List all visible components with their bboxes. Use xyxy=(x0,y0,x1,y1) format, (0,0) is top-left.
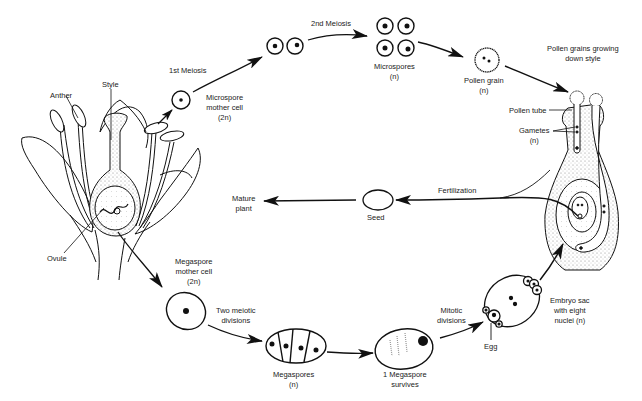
label-fertilization: Fertilization xyxy=(438,186,476,196)
megaspore-mother-cell-icon xyxy=(160,285,213,336)
arrow-to-pollen-grain xyxy=(418,42,463,57)
arrow-to-stigma xyxy=(505,66,568,92)
label-gametes: Gametes (n) xyxy=(519,126,549,146)
label-two-meiotic-divisions: Two meiotic divisions xyxy=(216,306,256,326)
label-first-meiosis: 1st Meiosis xyxy=(169,66,207,76)
label-megaspore-mother-cell: Megaspore mother cell (2n) xyxy=(175,257,213,287)
microspore-mother-cell-icon xyxy=(172,91,190,109)
label-egg: Egg xyxy=(484,342,497,352)
arrow-ovule-to-megaspore-mother-cell xyxy=(118,232,162,287)
pistil-pollen-tube-illustration xyxy=(545,91,619,270)
arrow-to-surviving-megaspore xyxy=(327,352,373,353)
dyad-cells-icon xyxy=(267,38,303,54)
label-mature-plant: Mature plant xyxy=(232,194,255,214)
label-microspore-mother-cell: Microspore mother cell (2n) xyxy=(206,93,243,123)
microspores-tetrad-icon xyxy=(377,18,414,56)
megaspores-icon xyxy=(266,329,326,363)
fertilization-tube-line xyxy=(500,170,550,198)
arrow-anther-to-mmc xyxy=(158,110,172,124)
arrow-seed-to-mature-plant xyxy=(264,200,356,201)
label-megaspores: Megaspores (n) xyxy=(273,370,314,390)
label-ovule: Ovule xyxy=(47,254,67,264)
label-pollen-grain: Pollen grain (n) xyxy=(464,76,504,96)
seed-icon xyxy=(363,190,393,210)
label-pollen-grains-growing: Pollen grains growing down style xyxy=(547,44,619,64)
pollen-grain-icon xyxy=(475,48,499,72)
label-microspores: Microspores (n) xyxy=(374,62,415,82)
surviving-megaspore-icon xyxy=(372,325,435,373)
label-anther: Anther xyxy=(50,91,72,101)
arrow-two-meiotic-divisions xyxy=(208,325,262,341)
label-second-meiosis: 2nd Meiosis xyxy=(311,19,351,29)
label-one-megaspore-survives: 1 Megaspore survives xyxy=(383,370,427,390)
life-cycle-diagram xyxy=(0,0,642,401)
label-mitotic-divisions: Mitotic divisions xyxy=(437,306,466,326)
embryo-sac-icon xyxy=(474,265,549,338)
label-pollen-tube: Pollen tube xyxy=(509,106,547,116)
label-style: Style xyxy=(102,80,119,90)
arrow-second-meiosis xyxy=(308,35,367,40)
label-embryo-sac: Embryo sac with eight nuclei (n) xyxy=(550,296,590,326)
label-seed: Seed xyxy=(367,213,385,223)
